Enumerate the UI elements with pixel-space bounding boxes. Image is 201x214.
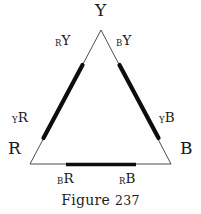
right-edge-thick-band <box>120 65 159 138</box>
edge-label-base-right: RB <box>119 172 136 186</box>
vertex-label-apex: Y <box>95 2 106 19</box>
edge-label-left-lower-small: Y <box>12 115 18 125</box>
edge-label-base-left-big: R <box>63 170 73 186</box>
left-edge-thick-band <box>44 65 83 138</box>
edge-label-right-upper: BY <box>116 34 131 48</box>
vertex-label-bottom-left: R <box>8 140 21 157</box>
edge-label-base-right-small: R <box>119 176 126 186</box>
edge-label-base-left-small: B <box>57 176 63 186</box>
triangle-path <box>30 30 171 164</box>
figure-caption-number: 237 <box>115 193 140 208</box>
edge-label-right-upper-small: B <box>116 38 122 48</box>
edge-label-right-lower: YB <box>159 111 175 125</box>
edge-label-base-left: BR <box>57 172 74 186</box>
triangle-drawing <box>0 0 201 214</box>
figure-237-diagram: Y R B RY BY YR YB BR RB Figure 237 <box>0 0 201 214</box>
edge-label-right-upper-big: Y <box>122 32 131 48</box>
edge-label-left-upper-big: Y <box>62 32 71 48</box>
vertex-label-bottom-right: B <box>180 140 193 157</box>
right-band-path <box>120 65 159 138</box>
figure-caption: Figure 237 <box>0 192 201 208</box>
edge-label-left-lower: YR <box>12 111 28 125</box>
edge-label-right-lower-small: Y <box>159 115 165 125</box>
left-band-path <box>44 65 83 138</box>
edge-label-left-upper: RY <box>55 34 71 48</box>
edge-label-left-upper-small: R <box>55 38 62 48</box>
edge-label-right-lower-big: B <box>165 109 175 125</box>
figure-caption-prefix: Figure <box>61 192 110 208</box>
triangle-outline <box>30 30 171 164</box>
edge-label-base-right-big: B <box>126 170 136 186</box>
edge-label-left-lower-big: R <box>18 109 28 125</box>
